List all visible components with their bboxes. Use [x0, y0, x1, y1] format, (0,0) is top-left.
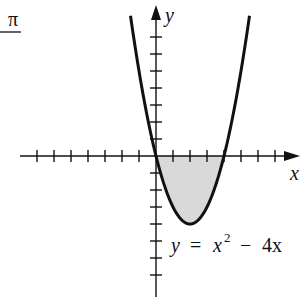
svg-text:4x: 4x [262, 234, 282, 256]
y-axis-arrow-icon [151, 5, 161, 20]
svg-text:2: 2 [224, 230, 231, 245]
parabola-graph: π y x y = x 2 − 4x [0, 0, 306, 299]
corner-pi-fragment: π [8, 8, 18, 30]
svg-text:−: − [240, 234, 251, 256]
y-axis-label: y [163, 4, 174, 27]
svg-text:x: x [212, 234, 222, 256]
x-axis-arrow-icon [284, 151, 300, 161]
svg-text:=: = [190, 234, 201, 256]
x-axis-label: x [289, 162, 299, 184]
equation-label: y = x 2 − 4x [169, 230, 282, 257]
svg-text:y: y [169, 234, 180, 257]
